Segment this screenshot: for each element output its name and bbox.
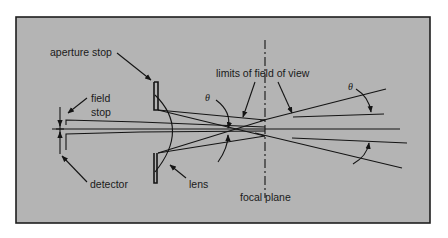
label-detector: detector bbox=[90, 178, 128, 190]
label-limits-of-field-of-view: limits of field of view bbox=[216, 67, 310, 79]
label-field-stop-2: stop bbox=[91, 106, 111, 118]
optical-field-of-view-diagram: aperture stop field stop detector lens l… bbox=[0, 0, 448, 238]
label-field-stop-1: field bbox=[91, 92, 110, 104]
label-focal-plane: focal plane bbox=[240, 191, 291, 203]
label-lens: lens bbox=[189, 178, 208, 190]
label-theta-right: θ bbox=[348, 81, 353, 92]
label-aperture-stop: aperture stop bbox=[50, 46, 112, 58]
label-theta-left: θ bbox=[205, 92, 210, 103]
